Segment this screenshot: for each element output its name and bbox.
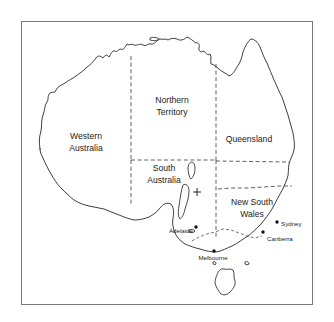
offshore-island-bass [213, 262, 216, 265]
state-label-new-south-wales-line1: New South [231, 197, 273, 207]
state-label-northern-territory-line1: Northern [155, 95, 189, 105]
city-label-adelaide: Adelaide [169, 227, 194, 234]
offshore-island-east [245, 262, 249, 265]
city-label-melbourne: Melbourne [198, 254, 228, 261]
city-dot-adelaide [194, 225, 197, 228]
state-label-western-australia-line2: Australia [69, 143, 103, 153]
city-dot-melbourne [212, 249, 215, 252]
state-label-south-australia-line1: South [153, 163, 176, 173]
australia-map-svg: Western Australia Northern Territory Que… [0, 0, 334, 322]
state-label-new-south-wales-line2: Wales [240, 209, 264, 219]
city-dot-sydney [275, 220, 278, 223]
city-label-sydney: Sydney [281, 220, 303, 227]
map-figure: Western Australia Northern Territory Que… [0, 0, 334, 322]
state-label-south-australia-line2: Australia [147, 175, 181, 185]
city-label-canberra: Canberra [267, 235, 293, 242]
state-label-queensland: Queensland [226, 134, 273, 144]
city-dot-canberra [261, 230, 264, 233]
offshore-island-north [150, 37, 159, 40]
tasmania-island [215, 269, 235, 295]
state-label-northern-territory-line2: Territory [156, 107, 188, 117]
state-label-western-australia-line1: Western [70, 131, 102, 141]
